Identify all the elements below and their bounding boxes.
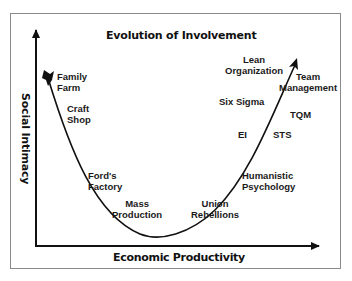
- label-craft-shop: Craft Shop: [67, 104, 91, 125]
- diagram-canvas: [0, 0, 352, 281]
- label-six-sigma: Six Sigma: [219, 97, 264, 108]
- y-axis-label: Social Intimacy: [19, 93, 32, 184]
- label-sts: STS: [273, 130, 291, 141]
- label-fords-factory: Ford's Factory: [88, 171, 122, 192]
- label-ei: EI: [238, 130, 247, 141]
- label-family-farm: Family Farm: [57, 72, 87, 93]
- label-union-rebellions: Union Rebellions: [191, 199, 239, 220]
- label-mass-production: Mass Production: [112, 199, 162, 220]
- label-team-management: Team Management: [279, 72, 337, 93]
- curve-start-arrowhead-icon: [42, 70, 54, 86]
- diagram-title: Evolution of Involvement: [106, 29, 257, 42]
- label-tqm: TQM: [290, 110, 311, 121]
- label-humanistic-psychology: Humanistic Psychology: [242, 171, 295, 192]
- x-axis-label: Economic Productivity: [113, 251, 245, 264]
- label-lean-organization: Lean Organization: [225, 55, 283, 76]
